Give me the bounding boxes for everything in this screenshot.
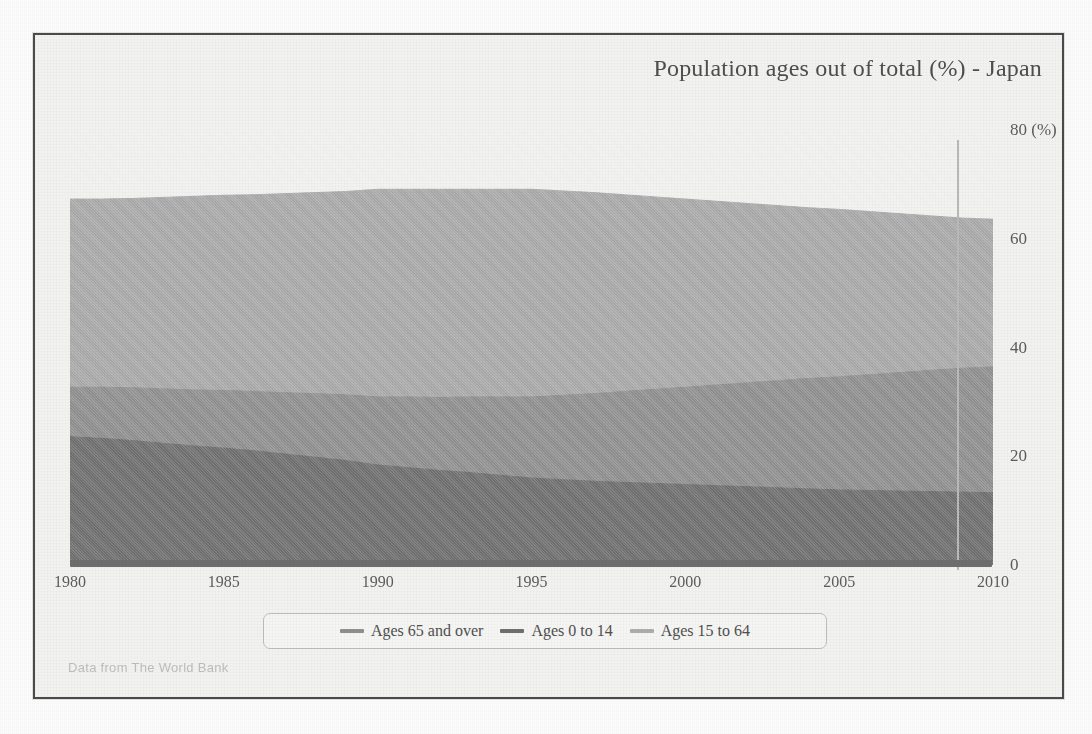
y-axis-line xyxy=(957,140,959,570)
x-axis-tick-labels: 1980198519901995200020052010 xyxy=(55,573,1010,597)
source-note: Data from The World Bank xyxy=(68,660,229,675)
legend-swatch-icon xyxy=(500,629,524,633)
legend-swatch-icon xyxy=(340,629,364,633)
y-tick-label: 20 xyxy=(1010,446,1027,466)
x-tick-label: 1990 xyxy=(362,573,394,591)
y-tick-label: 60 xyxy=(1010,229,1027,249)
area-chart-svg xyxy=(70,130,993,565)
legend-label: Ages 65 and over xyxy=(371,622,483,640)
y-tick-label: 0 xyxy=(1010,555,1019,575)
x-tick-label: 1985 xyxy=(208,573,240,591)
plot-area xyxy=(70,130,993,565)
legend-item[interactable]: Ages 0 to 14 xyxy=(500,622,612,640)
x-axis-baseline xyxy=(70,560,992,567)
y-tick-label: 80 (%) xyxy=(1010,120,1057,140)
x-tick-label: 2000 xyxy=(669,573,701,591)
y-tick-label: 40 xyxy=(1010,338,1027,358)
legend-item[interactable]: Ages 65 and over xyxy=(340,622,483,640)
legend-item[interactable]: Ages 15 to 64 xyxy=(630,622,750,640)
x-tick-label: 2005 xyxy=(823,573,855,591)
legend-label: Ages 15 to 64 xyxy=(661,622,750,640)
x-tick-label: 1995 xyxy=(516,573,548,591)
legend-swatch-icon xyxy=(630,629,654,633)
x-tick-label: 1980 xyxy=(54,573,86,591)
chart-frame: Population ages out of total (%) - Japan… xyxy=(33,33,1064,699)
x-tick-label: 2010 xyxy=(977,573,1009,591)
legend-label: Ages 0 to 14 xyxy=(531,622,612,640)
page-title: Population ages out of total (%) - Japan xyxy=(653,55,1042,82)
chart-legend[interactable]: Ages 65 and overAges 0 to 14Ages 15 to 6… xyxy=(263,613,827,649)
